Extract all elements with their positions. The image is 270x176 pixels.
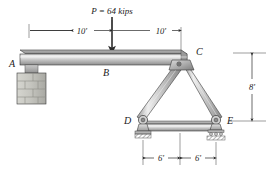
main-beam [20,50,187,65]
diagram-canvas: 10' 10' P = 64 kips [0,0,270,176]
roller-2 [215,133,218,136]
chord-top-face [141,121,218,124]
bottom-dimension-group: 6' 6' [143,133,216,165]
dimension-bottom-right: 6' [195,153,201,163]
shoe-d [137,124,149,131]
beam-front-face [20,54,187,65]
pin-c-center [178,63,180,65]
point-label-e: E [226,115,233,126]
dimension-top-left: 10' [77,26,88,36]
ground-hatch-d [135,134,151,138]
roller-3 [220,133,223,136]
base-plate-e [208,130,224,133]
dimension-bottom-left: 6' [158,153,164,163]
truss-group [137,66,222,131]
dimension-top-right: 10' [156,26,167,36]
member-ce-highlight [188,69,219,120]
member-ce [184,66,222,121]
right-dimension-group: 8' [228,53,266,121]
top-dimension-group: 10' 10' [29,20,181,50]
roller-1 [210,133,213,136]
structural-diagram: 10' 10' P = 64 kips [0,0,270,176]
point-label-a: A [8,58,16,69]
rollers-e [210,133,223,136]
member-de [141,121,218,131]
member-cd [137,66,181,121]
masonry-pier [17,73,46,104]
shoe-e [210,124,222,130]
base-plate-d [135,131,151,134]
joint-e: E [207,115,233,140]
support-a-group [17,65,46,104]
gusset-c [169,60,194,70]
pin-e [214,118,218,122]
joint-d: D [123,115,151,138]
pin-d [141,118,145,122]
chord-front-face [141,124,218,131]
dimension-right-vertical: 8' [249,82,255,92]
applied-load-group: P = 64 kips [90,6,133,50]
point-label-c: C [196,46,203,57]
ground-hatch-e [207,136,225,140]
load-label: P = 64 kips [90,6,133,16]
point-label-b: B [103,67,109,78]
member-cd-highlight [140,69,177,120]
point-label-d: D [123,115,132,126]
beam-top-face [20,50,187,54]
